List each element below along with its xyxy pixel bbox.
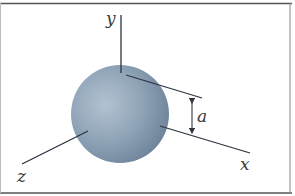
sphere-axes-diagram: y x z a <box>0 0 295 196</box>
dimension-label-a: a <box>197 108 207 125</box>
sphere <box>71 65 169 163</box>
x-axis-label: x <box>240 156 250 173</box>
z-axis-line <box>22 131 88 164</box>
diagram-canvas <box>0 0 295 196</box>
x-axis-line <box>160 126 250 153</box>
y-axis-label: y <box>106 10 116 27</box>
z-axis-label: z <box>17 168 26 185</box>
